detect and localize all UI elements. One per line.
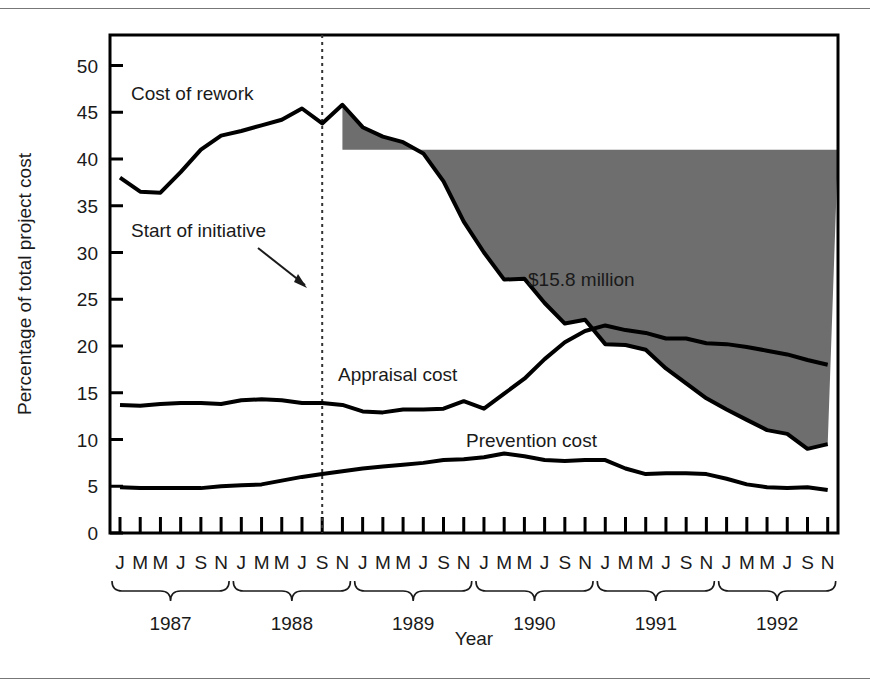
y-tick-label-10: 10 — [77, 430, 98, 451]
x-month-label-1992-J: J — [783, 552, 793, 573]
y-axis-ticks — [110, 66, 123, 534]
y-tick-label-20: 20 — [77, 336, 98, 357]
year-brace-1989 — [355, 581, 472, 601]
series-label-prevention-cost: Prevention cost — [466, 430, 598, 451]
year-label-1992: 1992 — [756, 613, 798, 634]
x-month-label-1988-M: M — [274, 552, 290, 573]
year-brace-1988 — [233, 581, 350, 601]
x-month-label-1991-N: N — [700, 552, 714, 573]
x-month-label-1989-M: M — [395, 552, 411, 573]
x-month-label-1989-N: N — [457, 552, 471, 573]
y-axis-tick-labels: 05101520253035404550 — [77, 56, 98, 545]
y-tick-label-25: 25 — [77, 289, 98, 310]
x-month-label-1988-M: M — [254, 552, 270, 573]
x-month-label-1992-J: J — [722, 552, 732, 573]
x-axis-year-braces — [112, 581, 836, 601]
line-chart: 05101520253035404550 JMMJSNJMMJSNJMMJSNJ… — [0, 0, 870, 693]
x-month-label-1988-S: S — [316, 552, 329, 573]
year-brace-1992 — [719, 581, 836, 601]
x-axis-title: Year — [455, 628, 494, 649]
x-month-label-1991-J: J — [661, 552, 671, 573]
y-tick-label-15: 15 — [77, 383, 98, 404]
x-month-label-1989-J: J — [358, 552, 368, 573]
shaded-area-value-label: $15.8 million — [528, 269, 635, 290]
x-month-label-1989-M: M — [375, 552, 391, 573]
y-tick-label-35: 35 — [77, 196, 98, 217]
series-label-cost-of-rework: Cost of rework — [131, 83, 254, 104]
x-month-label-1990-J: J — [540, 552, 550, 573]
year-label-1987: 1987 — [149, 613, 191, 634]
x-month-label-1987-M: M — [132, 552, 148, 573]
year-brace-1990 — [476, 581, 593, 601]
x-month-label-1992-N: N — [821, 552, 835, 573]
series-label-appraisal-cost: Appraisal cost — [338, 364, 458, 385]
x-month-label-1988-J: J — [237, 552, 247, 573]
year-label-1990: 1990 — [513, 613, 555, 634]
year-label-1989: 1989 — [392, 613, 434, 634]
x-month-label-1989-S: S — [437, 552, 450, 573]
year-label-1988: 1988 — [271, 613, 313, 634]
x-month-label-1987-M: M — [153, 552, 169, 573]
y-tick-label-5: 5 — [87, 476, 98, 497]
x-month-label-1988-J: J — [297, 552, 307, 573]
x-month-label-1991-M: M — [618, 552, 634, 573]
x-month-label-1987-S: S — [195, 552, 208, 573]
x-month-label-1990-M: M — [496, 552, 512, 573]
year-label-1991: 1991 — [635, 613, 677, 634]
x-month-label-1991-J: J — [601, 552, 611, 573]
year-brace-1991 — [597, 581, 714, 601]
y-tick-label-30: 30 — [77, 243, 98, 264]
y-tick-label-40: 40 — [77, 149, 98, 170]
x-axis-ticks — [120, 517, 828, 533]
series-line-prevention-cost — [120, 454, 828, 490]
top-divider-rule — [0, 8, 870, 9]
x-month-label-1987-J: J — [115, 552, 125, 573]
x-month-label-1992-M: M — [759, 552, 775, 573]
x-month-label-1987-J: J — [176, 552, 186, 573]
x-month-label-1990-J: J — [479, 552, 489, 573]
x-month-label-1991-M: M — [638, 552, 654, 573]
x-month-label-1987-N: N — [214, 552, 228, 573]
x-month-label-1991-S: S — [680, 552, 693, 573]
y-tick-label-50: 50 — [77, 56, 98, 77]
y-axis-title: Percentage of total project cost — [14, 152, 35, 415]
y-tick-label-0: 0 — [87, 523, 98, 544]
annotation-start-of-initiative: Start of initiative — [131, 220, 266, 241]
x-month-label-1992-M: M — [739, 552, 755, 573]
x-month-label-1990-N: N — [578, 552, 592, 573]
x-month-label-1988-N: N — [336, 552, 350, 573]
year-brace-1987 — [112, 581, 229, 601]
x-month-label-1990-M: M — [516, 552, 532, 573]
start-of-initiative-arrow — [258, 248, 307, 288]
x-axis-month-labels: JMMJSNJMMJSNJMMJSNJMMJSNJMMJSNJMMJSN — [115, 552, 834, 573]
x-month-label-1989-J: J — [419, 552, 429, 573]
y-tick-label-45: 45 — [77, 102, 98, 123]
figure-container: 05101520253035404550 JMMJSNJMMJSNJMMJSNJ… — [0, 0, 870, 693]
bottom-divider-rule — [0, 678, 870, 679]
x-month-label-1992-S: S — [801, 552, 814, 573]
x-month-label-1990-S: S — [558, 552, 571, 573]
